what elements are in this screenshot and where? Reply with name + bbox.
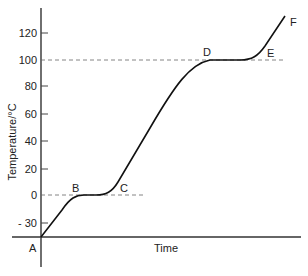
tick-label-120: 120 <box>19 27 37 39</box>
y-axis-title: Temperature/°C <box>6 103 18 180</box>
y-ticks <box>41 33 48 223</box>
point-label-b: B <box>72 182 79 194</box>
x-axis-title: Time <box>154 242 178 254</box>
tick-label-40: 40 <box>25 135 37 147</box>
point-label-f: F <box>290 16 297 28</box>
tick-label-80: 80 <box>25 80 37 92</box>
heating-curve <box>41 16 285 237</box>
point-label-c: C <box>120 182 128 194</box>
point-label-d: D <box>203 46 211 58</box>
point-label-a: A <box>29 242 37 254</box>
tick-label-60: 60 <box>25 108 37 120</box>
heating-curve-chart: 120 100 80 60 40 20 0 - 30 A B C D E F T… <box>0 0 308 276</box>
tick-label-100: 100 <box>19 54 37 66</box>
tick-label-minus30: - 30 <box>18 217 37 229</box>
point-label-e: E <box>267 47 274 59</box>
tick-label-0: 0 <box>31 189 37 201</box>
tick-label-20: 20 <box>25 163 37 175</box>
